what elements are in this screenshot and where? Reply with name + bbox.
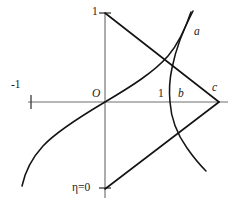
figure-canvas: 1 -1 O 1 a b c η=0 (0, 0, 235, 205)
point-c-label: c (212, 82, 217, 94)
curve-b-label: b (178, 88, 184, 100)
curve-a-label: a (194, 26, 200, 38)
x-tick-label-minus-one: -1 (11, 79, 21, 91)
line-bottom-to-c (105, 102, 219, 189)
origin-label: O (92, 88, 100, 100)
x-tick-label-one: 1 (158, 88, 164, 100)
y-tick-label-one: 1 (92, 6, 98, 18)
curve-a-path (169, 11, 206, 171)
s-curve-path (22, 12, 191, 186)
eta-zero-label: η=0 (72, 182, 90, 194)
